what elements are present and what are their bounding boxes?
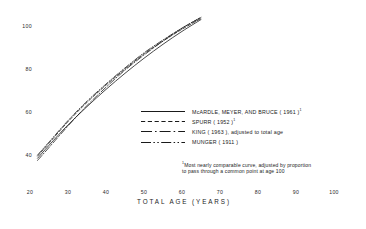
legend-item: MUNGER ( 1911 ) — [141, 137, 356, 147]
footnote-line-1: Most nearly comparable curve, adjusted b… — [184, 162, 311, 168]
legend-label: MUNGER ( 1911 ) — [192, 139, 238, 145]
legend-label: KING ( 1963 ), adjusted to total age — [192, 129, 283, 135]
legend-swatch-dashed-icon — [141, 118, 185, 125]
x-axis-title: TOTAL AGE (YEARS) — [104, 198, 264, 205]
chart-footnote: 1Most nearly comparable curve, adjusted … — [182, 160, 362, 175]
legend-footnote-marker: 1 — [233, 118, 235, 122]
legend-item: McARDLE, MEYER, AND BRUCE ( 1961 )1 — [141, 106, 356, 116]
legend-item: KING ( 1963 ), adjusted to total age — [141, 127, 356, 137]
legend-swatch-dash-dot-icon — [141, 128, 185, 135]
footnote-line-2: to pass through a common point at age 10… — [182, 168, 285, 174]
legend-label: McARDLE, MEYER, AND BRUCE ( 1961 )1 — [192, 108, 302, 115]
chart-legend: McARDLE, MEYER, AND BRUCE ( 1961 )1 SPUR… — [141, 106, 356, 147]
legend-swatch-solid-icon — [141, 108, 185, 115]
legend-item: SPURR ( 1952 )1 — [141, 116, 356, 126]
legend-footnote-marker: 1 — [300, 108, 302, 112]
legend-swatch-dash-dot-dot-icon — [141, 139, 185, 146]
legend-label: SPURR ( 1952 )1 — [192, 118, 236, 125]
chart-figure: 100 80 60 40 20 30 40 50 60 70 80 90 100… — [0, 0, 366, 229]
